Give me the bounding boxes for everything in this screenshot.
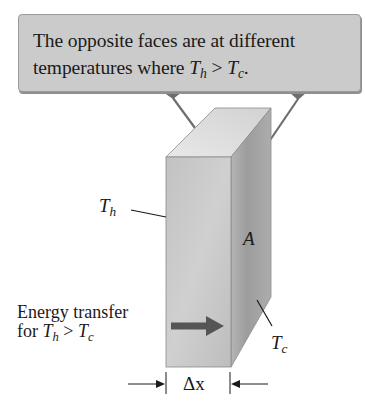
dimension-arrow-right-icon: [156, 380, 165, 388]
area-label: A: [243, 229, 255, 248]
dimension-arrow-left-icon: [231, 380, 240, 388]
connector-right-tab: [289, 92, 307, 100]
callout-line-2: temperatures where Th > Tc.: [33, 54, 360, 83]
energy-note-line-1: Energy transfer: [17, 303, 128, 322]
callout-line-1: The opposite faces are at different: [33, 27, 360, 54]
connector-left-tab: [163, 92, 182, 99]
energy-transfer-note: Energy transfer for Th > Tc: [17, 303, 128, 343]
cold-face-label: Tc: [271, 333, 287, 352]
connector-left-line: [173, 98, 195, 128]
slab-front-face: [166, 157, 231, 367]
callout-box: The opposite faces are at different temp…: [18, 14, 361, 92]
thickness-label: Δx: [183, 374, 205, 393]
hot-face-leader: [131, 210, 166, 217]
energy-note-line-2: for Th > Tc: [17, 322, 128, 343]
hot-face-label: Th: [99, 196, 116, 215]
